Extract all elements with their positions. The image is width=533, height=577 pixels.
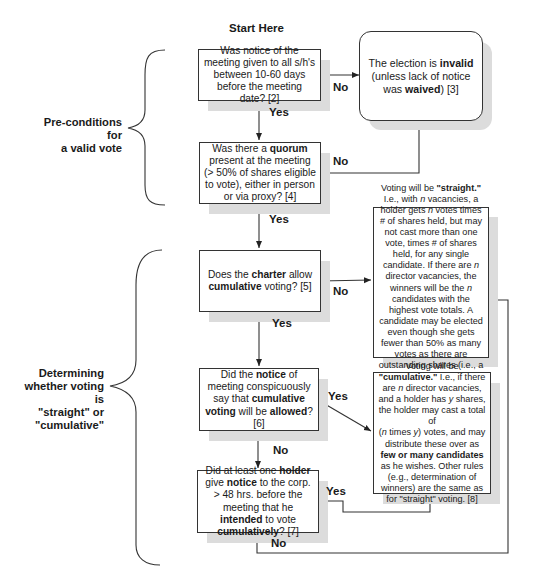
edge-label-charter-no: No — [333, 285, 348, 297]
node-meeting-notice-cumulative: Did the notice of meeting conspicuously … — [199, 368, 319, 431]
node-holder-notice: Did at least one holder give notice to t… — [197, 470, 319, 533]
edge-label-meeting-notice-yes: Yes — [328, 390, 348, 402]
section-label-determining: Determining whether voting is "straight"… — [20, 367, 104, 432]
edge-label-quorum-no: No — [333, 155, 348, 167]
node-charter-allows: Does the charter allow cumulative voting… — [199, 250, 321, 312]
node-straight-voting: Voting will be "straight." I.e., with n … — [373, 207, 489, 358]
edge-label-holder-no: No — [271, 537, 286, 549]
node-notice-given: Was notice of the meeting given to all s… — [198, 49, 321, 101]
brace-preconditions — [128, 50, 165, 205]
section-label-preconditions: Pre-conditions for a valid vote — [36, 116, 122, 155]
brace-determining — [110, 250, 162, 565]
edge-label-meeting-notice-no: No — [273, 444, 288, 456]
node-cumulative-voting: Voting will be "cumulative." I.e., if th… — [373, 372, 491, 494]
edge-label-notice-yes: Yes — [269, 106, 289, 118]
node-election-invalid: The election is invalid (unless lack of … — [359, 31, 483, 121]
edge-label-quorum-yes: Yes — [269, 213, 289, 225]
edge-label-notice-no: No — [333, 81, 348, 93]
edge-label-charter-yes: Yes — [272, 317, 292, 329]
node-quorum-present: Was there a quorum present at the meetin… — [199, 142, 321, 204]
edge-label-holder-yes: Yes — [326, 485, 346, 497]
